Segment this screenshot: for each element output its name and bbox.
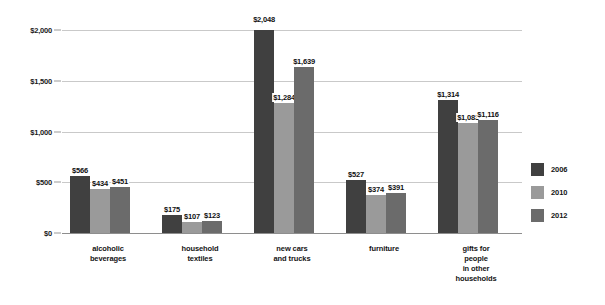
bar-group: $175$107$123householdtextiles [154,30,246,241]
bar-column[interactable]: $566 [70,30,90,233]
y-axis-tick-mark [54,30,61,31]
bar-value-label: $566 [71,166,89,175]
bar-column[interactable]: $1,284 [274,30,294,233]
x-axis-category-label: furniture [338,244,430,254]
bar-column[interactable]: $1,116 [478,30,498,233]
bar[interactable] [366,195,386,233]
bar-value-label: $1,116 [476,110,499,119]
bar[interactable] [458,123,478,233]
bar-column[interactable]: $434 [90,30,110,233]
bar-column[interactable]: $1,639 [294,30,314,233]
bar[interactable] [90,189,110,233]
legend-label: 2010 [551,188,567,197]
legend-label: 2012 [551,211,567,220]
y-axis-tick-label: $1,500 [0,76,52,85]
bar-value-label: $123 [203,211,221,220]
legend-color-swatch [531,186,544,199]
bar-group: $566$434$451alcoholicbeverages [62,30,154,241]
bar-value-label: $527 [347,170,365,179]
bar-group: $527$374$391furniture [338,30,430,241]
bar-value-label: $434 [91,179,109,188]
legend-item[interactable]: 2012 [531,209,567,222]
bar-column[interactable]: $175 [162,30,182,233]
bar-value-label: $451 [111,177,129,186]
legend-item[interactable]: 2006 [531,163,567,176]
legend-item[interactable]: 2010 [531,186,567,199]
y-axis-tick-mark [54,80,61,81]
bar[interactable] [386,193,406,233]
bar[interactable] [182,222,202,233]
bars-row: $566$434$451 [70,30,130,233]
y-axis-tick-label: $500 [0,178,52,187]
legend-label: 2006 [551,165,567,174]
bar[interactable] [110,187,130,233]
x-axis-category-label: alcoholicbeverages [62,244,154,264]
bar-group: $1,314$1,083$1,116gifts forpeoplein othe… [430,30,522,241]
bar-column[interactable]: $2,048 [254,30,274,233]
bar-value-label: $391 [387,183,405,192]
plot-area: $0$500$1,000$1,500$2,000$566$434$451alco… [62,30,522,241]
bar-column[interactable]: $123 [202,30,222,233]
bar[interactable] [70,176,90,233]
bar-value-label: $1,639 [292,57,316,66]
y-axis-tick-label: $1,000 [0,127,52,136]
bar-column[interactable]: $1,083 [458,30,478,233]
chart-legend: 200620102012 [531,163,567,222]
bar-column[interactable]: $391 [386,30,406,233]
bar-column[interactable]: $451 [110,30,130,233]
legend-color-swatch [531,163,544,176]
y-axis-tick-label: $0 [0,229,52,238]
bar-value-label: $1,314 [436,90,460,99]
bar-chart: $0$500$1,000$1,500$2,000$566$434$451alco… [0,0,605,305]
bar[interactable] [478,120,498,233]
bar-group: $2,048$1,284$1,639new carsand trucks [246,30,338,241]
x-axis-category-label: new carsand trucks [246,244,338,264]
y-axis-tick-mark [54,131,61,132]
bar[interactable] [346,180,366,233]
x-axis-category-label: gifts forpeoplein otherhouseholds [430,244,522,284]
x-axis-category-label: householdtextiles [154,244,246,264]
bar-value-label: $374 [367,185,385,194]
y-axis-tick-label: $2,000 [0,26,52,35]
bar[interactable] [438,100,458,233]
bar[interactable] [254,30,274,233]
bars-row: $175$107$123 [162,30,222,233]
bar-column[interactable]: $374 [366,30,386,233]
bar-value-label: $2,048 [252,15,276,24]
bar[interactable] [202,221,222,233]
bar-column[interactable]: $1,314 [438,30,458,233]
bars-row: $2,048$1,284$1,639 [254,30,314,233]
legend-color-swatch [531,209,544,222]
y-axis-tick-mark [54,182,61,183]
bar-value-label: $1,284 [272,93,296,102]
bar[interactable] [294,67,314,233]
bar-column[interactable]: $107 [182,30,202,233]
bar-column[interactable]: $527 [346,30,366,233]
y-axis-tick-mark [54,233,61,234]
bars-row: $1,314$1,083$1,116 [438,30,498,233]
bar-value-label: $107 [183,212,201,221]
bar[interactable] [274,103,294,233]
bar-value-label: $175 [163,205,181,214]
bar[interactable] [162,215,182,233]
bars-row: $527$374$391 [346,30,406,233]
